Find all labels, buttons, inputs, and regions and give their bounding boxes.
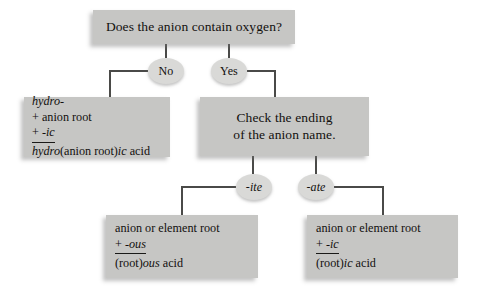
decision-node-yes: Yes — [211, 58, 247, 84]
ous-result-root: (root) — [115, 256, 143, 270]
hydro-acid-box: hydro- + anion root + -ic hydro(anion ro… — [24, 97, 170, 157]
decision-node-yes-label: Yes — [220, 64, 238, 79]
ic-root-line: anion or element root — [316, 221, 421, 236]
ic-result-acid: acid — [353, 256, 376, 270]
hydro-result-root: (anion root) — [60, 144, 118, 158]
hydro-result-acid: acid — [127, 144, 150, 158]
ic-suffix-plus: + — [316, 237, 326, 251]
decision-node-ite-label: -ite — [246, 180, 262, 195]
ic-acid-box: anion or element root + -ic (root)ic aci… — [307, 215, 458, 278]
hydro-root-line: + anion root — [32, 110, 92, 125]
question-text: Does the anion contain oxygen? — [106, 19, 282, 36]
ous-acid-box: anion or element root + -ous (root)ous a… — [106, 215, 258, 278]
ic-suffix-line: + -ic — [316, 237, 339, 254]
hydro-result-ic: ic — [118, 144, 127, 158]
decision-node-ate-label: -ate — [306, 180, 325, 195]
acid-naming-flowchart: Does the anion contain oxygen? No Yes hy… — [0, 0, 478, 297]
check-ending-line2: of the anion name. — [233, 127, 335, 144]
hydro-result-line: hydro(anion root)ic acid — [32, 144, 150, 160]
hydro-result-hydro: hydro — [32, 144, 60, 158]
ous-result-acid: acid — [160, 256, 183, 270]
ic-suffix-ic: -ic — [326, 237, 339, 251]
connector-yes-to-check — [247, 71, 275, 97]
hydro-prefix-line: hydro- — [32, 94, 64, 109]
question-box: Does the anion contain oxygen? — [93, 10, 295, 44]
hydro-suffix-line: + -ic — [32, 125, 55, 142]
ous-root-line: anion or element root — [115, 221, 220, 236]
decision-node-ate: -ate — [298, 174, 334, 200]
check-ending-line1: Check the ending — [236, 110, 332, 127]
ous-suffix-ous: -ous — [125, 237, 146, 251]
ous-result-ous: ous — [143, 256, 160, 270]
connector-ite-to-ous — [182, 187, 236, 215]
ous-suffix-line: + -ous — [115, 237, 146, 254]
hydro-suffix-ic: -ic — [42, 125, 55, 139]
connector-no-to-hydro — [110, 71, 148, 97]
ic-result-line: (root)ic acid — [316, 256, 376, 272]
ic-result-root: (root) — [316, 256, 344, 270]
decision-node-no-label: No — [159, 64, 174, 79]
ous-suffix-plus: + — [115, 237, 125, 251]
check-ending-box: Check the ending of the anion name. — [200, 97, 369, 156]
decision-node-no: No — [148, 58, 184, 84]
hydro-suffix-plus: + — [32, 125, 42, 139]
connector-ate-to-ic — [334, 187, 383, 215]
ic-result-ic: ic — [344, 256, 353, 270]
ous-result-line: (root)ous acid — [115, 256, 183, 272]
decision-node-ite: -ite — [236, 174, 272, 200]
